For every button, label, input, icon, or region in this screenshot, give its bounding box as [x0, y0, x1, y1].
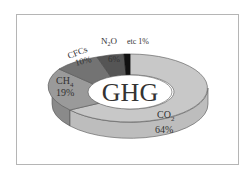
label-n2o-name: N2O	[101, 36, 118, 47]
label-n2o-value: 6%	[108, 54, 121, 64]
ghg-donut-chart: GHG CO2 64% CH4 19% CFCs 10% N2O 6% etc …	[0, 0, 252, 176]
label-co2-value: 64%	[155, 124, 173, 135]
label-ch4-value: 19%	[56, 87, 74, 98]
label-etc: etc 1%	[127, 37, 149, 46]
center-label: GHG	[102, 78, 158, 107]
